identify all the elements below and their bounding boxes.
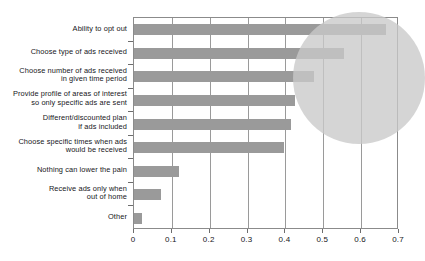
y-axis-label: Provide profile of areas of interestso o… [0, 91, 127, 108]
y-axis-label: Choose type of ads received [0, 48, 127, 57]
y-axis-label: Other [0, 213, 127, 222]
x-axis-tick [133, 229, 134, 233]
x-axis-tick-label: 0.4 [279, 235, 291, 244]
y-axis-label-line: if ads included [0, 123, 127, 132]
y-axis-label: Receive ads only whenout of home [0, 185, 127, 202]
x-axis-tick-label: 0.5 [316, 235, 328, 244]
x-axis-tick-label: 0 [131, 235, 136, 244]
y-axis-label: Choose number of ads receivedin given ti… [0, 67, 127, 84]
bar [134, 119, 291, 130]
y-axis-label-line: Nothing can lower the pain [0, 166, 127, 175]
bar [134, 95, 295, 106]
bar [134, 166, 179, 177]
y-axis-labels: Ability to opt outChoose type of ads rec… [0, 17, 127, 229]
plot-area [133, 17, 398, 229]
x-axis-tick-label: 0.7 [392, 235, 404, 244]
x-axis-tick [209, 229, 210, 233]
bar [134, 71, 314, 82]
gridline [361, 18, 362, 228]
bar [134, 48, 344, 59]
x-axis-tick-label: 0.3 [241, 235, 253, 244]
bar [134, 142, 284, 153]
x-axis-tick-label: 0.6 [354, 235, 366, 244]
x-axis-tick-label: 0.1 [165, 235, 177, 244]
y-axis-label-line: would be received [0, 147, 127, 156]
x-axis-tick [398, 229, 399, 233]
x-axis-tick [171, 229, 172, 233]
y-axis-label: Choose specific times when adswould be r… [0, 138, 127, 155]
x-axis-tick [322, 229, 323, 233]
y-axis-label: Ability to opt out [0, 24, 127, 33]
x-axis: 00.10.20.30.40.50.60.7 [133, 229, 398, 261]
y-axis-label: Nothing can lower the pain [0, 166, 127, 175]
bar [134, 213, 142, 224]
y-axis-label-line: Choose type of ads received [0, 48, 127, 57]
bar [134, 189, 161, 200]
x-axis-tick [247, 229, 248, 233]
bar [134, 24, 386, 35]
y-axis-label-line: in given time period [0, 76, 127, 85]
x-axis-tick [360, 229, 361, 233]
y-axis-label-line: Other [0, 213, 127, 222]
y-axis-label-line: so only specific ads are sent [0, 99, 127, 108]
y-axis-label: Different/discounted planif ads included [0, 114, 127, 131]
x-axis-tick-label: 0.2 [203, 235, 215, 244]
x-axis-tick [284, 229, 285, 233]
y-axis-label-line: Ability to opt out [0, 24, 127, 33]
y-axis-label-line: out of home [0, 194, 127, 203]
